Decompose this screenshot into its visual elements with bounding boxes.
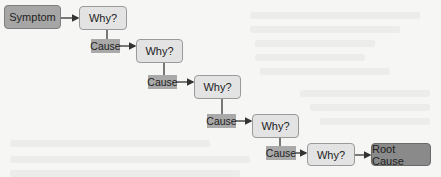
cause-node-2: Cause	[148, 75, 177, 89]
cause-node-1: Cause	[91, 39, 120, 53]
why-node-3: Why?	[194, 75, 241, 99]
symptom-node: Symptom	[4, 5, 61, 29]
why-node-4: Why?	[252, 114, 299, 138]
why-node-1: Why?	[79, 6, 127, 30]
cause-node-4: Cause	[266, 146, 296, 160]
why-node-5: Why?	[307, 143, 355, 166]
cause-node-3: Cause	[207, 114, 236, 128]
why-node-2: Why?	[136, 39, 183, 63]
root-cause-node: Root Cause	[371, 143, 431, 166]
